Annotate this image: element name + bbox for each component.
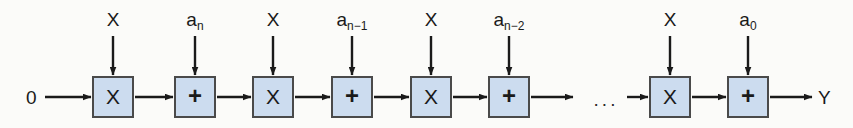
input-initial-value-label: 0 <box>26 88 37 107</box>
add-block-1[interactable]: + <box>174 76 216 118</box>
multiply-block-3[interactable]: X <box>410 76 452 118</box>
add-glyph: + <box>741 84 755 108</box>
multiply-block-2[interactable]: X <box>252 76 294 118</box>
output-result-label: Y <box>818 88 831 107</box>
datapath-diagram: X an X an−1 X an−2 X a0 X + X + X + X + … <box>0 0 853 128</box>
input-label-coefficient-an-1: an−1 <box>312 10 392 29</box>
add-block-last[interactable]: + <box>727 76 769 118</box>
continuation-ellipsis: ... <box>586 90 626 109</box>
multiply-block-last[interactable]: X <box>649 76 691 118</box>
input-label-coefficient-an: an <box>155 10 235 29</box>
add-glyph: + <box>345 84 359 108</box>
multiply-glyph: X <box>663 86 677 107</box>
multiply-glyph: X <box>266 86 280 107</box>
add-glyph: + <box>502 84 516 108</box>
input-label-coefficient-a0: a0 <box>708 10 788 29</box>
add-block-2[interactable]: + <box>331 76 373 118</box>
input-label-x-1: X <box>73 10 153 29</box>
input-label-x-last: X <box>630 10 710 29</box>
input-label-coefficient-an-2: an−2 <box>469 10 549 29</box>
input-label-x-3: X <box>391 10 471 29</box>
multiply-block-1[interactable]: X <box>92 76 134 118</box>
multiply-glyph: X <box>106 86 120 107</box>
multiply-glyph: X <box>424 86 438 107</box>
input-label-x-2: X <box>233 10 313 29</box>
add-block-3[interactable]: + <box>488 76 530 118</box>
add-glyph: + <box>188 84 202 108</box>
